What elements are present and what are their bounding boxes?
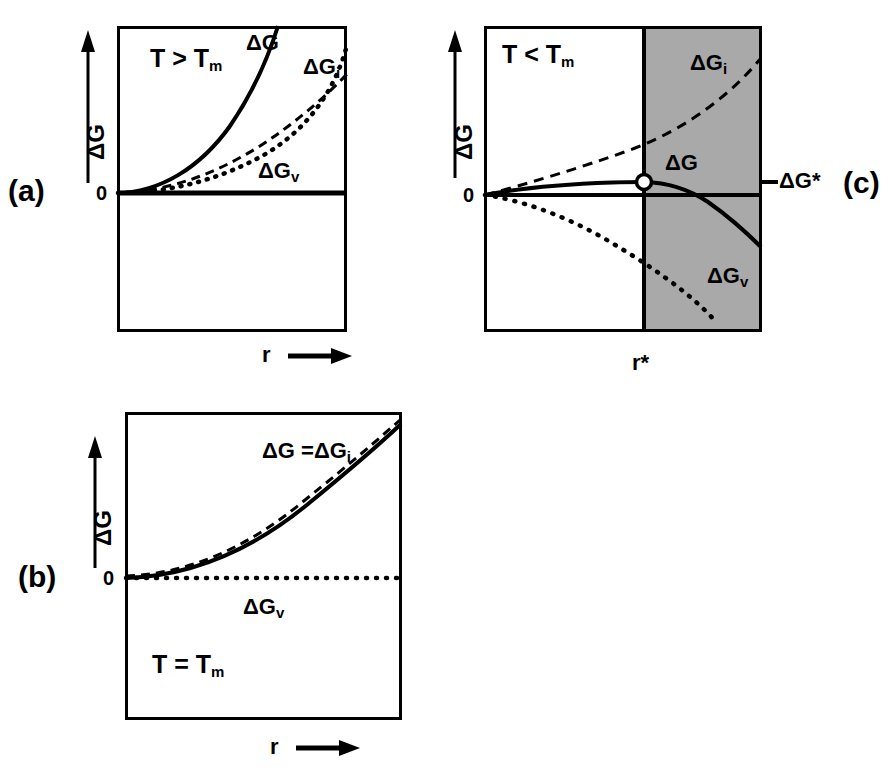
panel-b-graphics (0, 0, 888, 774)
panel-b-x-axis-arrow (296, 740, 360, 756)
panel-b-condition: T = Tm (152, 652, 224, 679)
panel-b-x-axis-label: r (270, 736, 279, 758)
panel-b-label-delta-G-v: ΔGv (243, 596, 284, 620)
panel-b-zero-label: 0 (103, 568, 114, 588)
panel-b-label-delta-G-equals-delta-G-i: ΔG =ΔGi (262, 440, 351, 464)
panel-b-tag: (b) (18, 562, 56, 592)
figure-canvas: (a) T > Tm ΔG 0 ΔG ΔGi ΔGv r (c) T < Tm … (0, 0, 888, 774)
panel-b-y-axis-label: ΔG (89, 510, 117, 546)
panel-b-y-axis-arrow (88, 436, 102, 568)
panel-b-condition-sub: m (211, 663, 224, 680)
